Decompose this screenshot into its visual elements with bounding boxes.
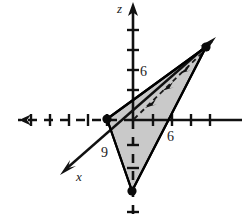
- dot-y-intercept: [201, 42, 210, 51]
- z-tick-label-6: 6: [140, 64, 147, 79]
- dot-x-intercept: [102, 114, 111, 123]
- y-tick-label-6: 6: [167, 129, 174, 144]
- coordinate-plot-svg: z x 6 6 9: [0, 0, 242, 222]
- dot-z-intercept: [127, 186, 136, 195]
- x-tick-label-9: 9: [101, 145, 108, 160]
- z-axis-label: z: [116, 1, 122, 16]
- x-axis-label: x: [75, 169, 82, 184]
- figure-container: z x 6 6 9: [0, 0, 242, 222]
